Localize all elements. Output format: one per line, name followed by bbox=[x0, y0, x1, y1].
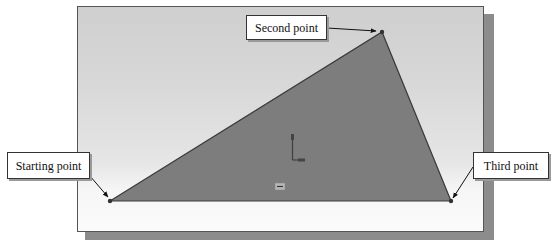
starting-point-label: Starting point bbox=[16, 160, 82, 172]
second-point-vertex[interactable] bbox=[380, 30, 384, 34]
second-point-leader-arrow bbox=[327, 28, 376, 31]
starting-point-vertex[interactable] bbox=[108, 199, 112, 203]
second-point-callout: Second point bbox=[246, 15, 327, 40]
third-point-callout: Third point bbox=[473, 152, 549, 179]
third-point-label: Third point bbox=[484, 160, 538, 172]
third-point-vertex[interactable] bbox=[449, 199, 453, 203]
starting-point-callout: Starting point bbox=[7, 152, 90, 179]
starting-point-leader-arrow bbox=[90, 176, 108, 197]
third-point-leader-arrow bbox=[453, 167, 473, 198]
triangle-sketch[interactable] bbox=[110, 32, 451, 201]
second-point-label: Second point bbox=[255, 22, 318, 34]
dimension-marker-icon bbox=[275, 183, 285, 190]
